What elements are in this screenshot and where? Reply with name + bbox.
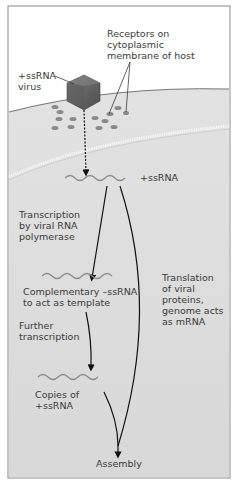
receptors-label: Receptors on cytoplasmic membrane of hos… <box>107 28 195 61</box>
further-transcription-label: Further transcription <box>19 320 79 342</box>
transcription-label: Transcription by viral RNA polymerase <box>19 209 80 242</box>
virus-label: +ssRNA virus <box>18 70 56 92</box>
copies-label: Copies of +ssRNA <box>35 389 79 411</box>
assembly-label: Assembly <box>96 458 142 469</box>
translation-label: Translation of viral proteins, genome ac… <box>162 272 224 327</box>
complementary-label: Complementary –ssRNA to act as template <box>23 286 137 308</box>
ssrna-label: +ssRNA <box>140 172 178 183</box>
